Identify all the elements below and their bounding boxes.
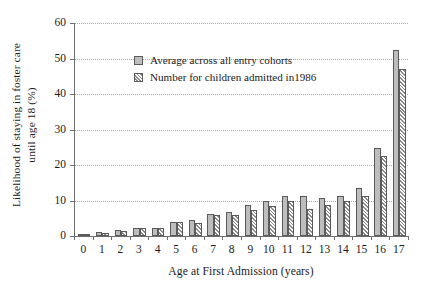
y-tick-label-20: 20	[34, 159, 66, 170]
y-tick-label-60: 60	[34, 17, 66, 28]
bar-1986-age-7	[214, 215, 220, 236]
x-tick-mark-15	[352, 236, 353, 240]
legend-item-average: Average across all entry cohorts	[134, 53, 316, 68]
y-tick-label-10: 10	[34, 195, 66, 206]
bar-1986-age-17	[399, 69, 405, 236]
bar-group-age-1	[96, 23, 109, 236]
bar-1986-age-8	[232, 215, 238, 236]
x-tick-mark-12	[297, 236, 298, 240]
bar-1986-age-0	[84, 234, 90, 236]
bar-1986-age-3	[140, 228, 146, 236]
x-tick-mark-3	[130, 236, 131, 240]
bar-1986-age-10	[269, 206, 275, 236]
y-axis-title-line1: Likelihood of staying in foster care	[9, 15, 24, 235]
bar-1986-age-14	[344, 201, 350, 236]
bar-group-age-13	[319, 23, 332, 236]
x-tick-mark-5	[167, 236, 168, 240]
y-tick-label-30: 30	[34, 124, 66, 135]
bar-group-age-16	[374, 23, 387, 236]
legend-label-average: Average across all entry cohorts	[150, 53, 292, 68]
bar-1986-age-1	[102, 233, 108, 236]
bar-1986-age-15	[362, 196, 368, 236]
x-tick-mark-13	[315, 236, 316, 240]
x-tick-mark-4	[148, 236, 149, 240]
x-tick-mark-18	[408, 236, 409, 240]
bar-1986-age-12	[307, 209, 313, 236]
bar-chart: Likelihood of staying in foster care unt…	[0, 0, 425, 303]
bar-group-age-14	[337, 23, 350, 236]
legend: Average across all entry cohorts Number …	[134, 53, 316, 87]
bar-1986-age-5	[177, 222, 183, 236]
x-tick-mark-14	[334, 236, 335, 240]
x-tick-mark-10	[260, 236, 261, 240]
x-tick-mark-17	[389, 236, 390, 240]
bar-group-age-15	[356, 23, 369, 236]
y-tick-label-40: 40	[34, 88, 66, 99]
bar-1986-age-9	[251, 210, 257, 236]
bar-1986-age-6	[195, 223, 201, 236]
legend-label-1986: Number for children admitted in1986	[150, 70, 316, 85]
x-tick-mark-0	[74, 236, 75, 240]
bar-1986-age-4	[158, 228, 164, 236]
x-tick-label-17: 17	[387, 243, 411, 255]
x-tick-mark-8	[222, 236, 223, 240]
solid-gray-swatch-icon	[134, 56, 143, 65]
bar-group-age-0	[78, 23, 91, 236]
y-tick-label-50: 50	[34, 53, 66, 64]
bar-group-age-17	[393, 23, 406, 236]
bar-1986-age-11	[288, 201, 294, 236]
hatched-swatch-icon	[134, 73, 143, 82]
x-tick-mark-7	[204, 236, 205, 240]
bar-group-age-2	[115, 23, 128, 236]
x-tick-mark-2	[111, 236, 112, 240]
x-tick-mark-1	[93, 236, 94, 240]
bar-1986-age-2	[121, 231, 127, 236]
bar-1986-age-16	[381, 156, 387, 236]
x-tick-mark-6	[185, 236, 186, 240]
y-tick-label-0: 0	[34, 230, 66, 241]
legend-item-1986: Number for children admitted in1986	[134, 70, 316, 85]
bar-1986-age-13	[325, 205, 331, 236]
x-tick-mark-11	[278, 236, 279, 240]
x-axis-title: Age at First Admission (years)	[74, 265, 408, 278]
x-tick-mark-16	[371, 236, 372, 240]
x-tick-mark-9	[241, 236, 242, 240]
